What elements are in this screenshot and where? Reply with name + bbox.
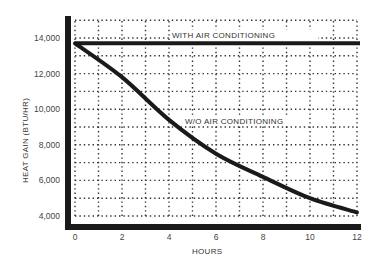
x-tick-label: 6 (214, 232, 219, 242)
with-ac-label: WITH AIR CONDITIONING (172, 31, 275, 40)
y-tick-label: 4,000 (39, 211, 61, 221)
y-tick-label: 10,000 (34, 104, 60, 114)
x-tick-label: 8 (261, 232, 266, 242)
x-axis (65, 224, 361, 230)
y-tick-label: 8,000 (39, 140, 61, 150)
y-tick-label: 6,000 (39, 175, 61, 185)
x-tick-label: 2 (120, 232, 125, 242)
x-axis-label: HOURS (192, 247, 222, 256)
x-tick-label: 10 (305, 232, 315, 242)
y-tick-label: 14,000 (34, 33, 60, 43)
heat-gain-chart: 024681012 4,0006,0008,00010,00012,00014,… (0, 0, 378, 265)
y-tick-labels: 4,0006,0008,00010,00012,00014,000 (34, 33, 60, 221)
y-axis (65, 16, 71, 230)
x-tick-labels: 024681012 (73, 232, 362, 242)
y-axis-label: HEAT GAIN (BTU/HR) (21, 98, 30, 183)
x-tick-label: 0 (73, 232, 78, 242)
y-tick-label: 12,000 (34, 69, 60, 79)
x-tick-label: 4 (167, 232, 172, 242)
x-tick-label: 12 (352, 232, 362, 242)
without-ac-label: W/O AIR CONDITIONING (185, 117, 283, 126)
